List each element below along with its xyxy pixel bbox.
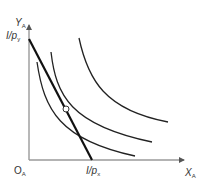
budget-line xyxy=(29,39,92,160)
x-intercept-label-main: I/p xyxy=(86,165,97,176)
indifference-curve-2 xyxy=(51,52,152,142)
y-intercept-label: I/py xyxy=(6,31,20,42)
x-axis-label: XA xyxy=(185,168,196,179)
equilibrium-point xyxy=(63,106,69,112)
y-intercept-label-main: I/p xyxy=(6,30,17,41)
origin-label-main: O xyxy=(14,165,22,176)
y-intercept-label-sub: y xyxy=(17,36,20,42)
origin-label-sub: A xyxy=(22,171,26,177)
x-intercept-label: I/px xyxy=(86,166,100,177)
x-intercept-label-sub: x xyxy=(97,171,100,177)
x-axis-label-sub: A xyxy=(192,173,196,179)
indifference-curve-1 xyxy=(37,62,135,156)
y-axis-label-sub: A xyxy=(22,23,26,29)
indifference-curve-3 xyxy=(79,38,168,122)
x-axis-label-main: X xyxy=(185,167,192,178)
y-axis-label-main: Y xyxy=(15,17,22,28)
y-axis-label: YA xyxy=(15,18,26,29)
origin-label: OA xyxy=(14,166,26,177)
indifference-curve-diagram xyxy=(0,0,200,182)
